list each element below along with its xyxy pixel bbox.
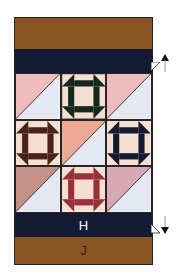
arrow-down-icon — [161, 216, 169, 234]
quilt-diagram: H J — [14, 17, 153, 265]
block-grid — [15, 73, 152, 213]
block-hst-r1c1 — [61, 120, 107, 167]
block-hst-r0c0 — [15, 73, 61, 120]
fold-tab-bottom-icon — [151, 224, 161, 234]
block-hst-r2c2 — [106, 166, 152, 213]
block-churn-dash-r0c1 — [61, 73, 107, 120]
block-churn-dash-r2c1 — [61, 166, 107, 213]
top-inner-border-band — [15, 49, 152, 73]
block-hst-r2c0 — [15, 166, 61, 213]
band-label-j: J — [80, 243, 87, 258]
top-outer-border-band — [15, 18, 152, 49]
arrow-up-icon — [161, 54, 169, 72]
bottom-inner-border-band: H — [15, 213, 152, 237]
block-churn-dash-r1c0 — [15, 120, 61, 167]
block-hst-r0c2 — [106, 73, 152, 120]
block-churn-dash-r1c2 — [106, 120, 152, 167]
band-label-h: H — [79, 218, 88, 233]
bottom-outer-border-band: J — [15, 237, 152, 264]
fold-tab-top-icon — [151, 62, 161, 72]
